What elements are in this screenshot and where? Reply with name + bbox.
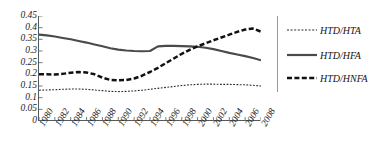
y-tick-label: 0.25 (1, 58, 37, 67)
plot-area (38, 16, 260, 121)
y-tick-label: 0.4 (1, 23, 37, 32)
y-tick-label: 0.2 (1, 69, 37, 78)
chart-legend: HTD/HTA HTD/HFA HTD/HNFA (277, 16, 391, 92)
y-tick-label: 0.35 (1, 34, 37, 43)
y-tick-label: 0.05 (1, 104, 37, 113)
y-tick-label: 0.3 (1, 46, 37, 55)
legend-label-htd-hfa: HTD/HFA (320, 50, 361, 61)
legend-item-htd-hta: HTD/HTA (287, 23, 361, 37)
y-tick-label: 0.15 (1, 81, 37, 90)
axis-ticks (39, 16, 261, 121)
line-chart: 00.050.10.150.20.250.30.350.40.45 198019… (0, 0, 391, 164)
series-line-htd-hfa (39, 35, 261, 61)
legend-item-htd-hnfa: HTD/HNFA (287, 71, 368, 85)
legend-label-htd-hta: HTD/HTA (320, 25, 361, 36)
y-tick-label: 0 (1, 116, 37, 125)
series-line-htd-hnfa (39, 29, 261, 81)
series-line-htd-hta (39, 84, 261, 91)
x-axis-tick-labels: 1980198219841986198819901992199419961998… (38, 123, 263, 164)
legend-item-htd-hfa: HTD/HFA (287, 48, 361, 62)
y-tick-label: 0.1 (1, 93, 37, 102)
legend-label-htd-hnfa: HTD/HNFA (320, 73, 368, 84)
legend-swatch-dashed (287, 73, 317, 83)
y-axis-tick-labels: 00.050.10.150.20.250.30.350.40.45 (0, 0, 37, 140)
legend-swatch-solid (287, 50, 317, 60)
y-tick-label: 0.45 (1, 11, 37, 20)
plot-series-svg (39, 16, 261, 121)
x-tick-label: 2008 (259, 107, 277, 128)
legend-swatch-dotted (287, 25, 317, 35)
